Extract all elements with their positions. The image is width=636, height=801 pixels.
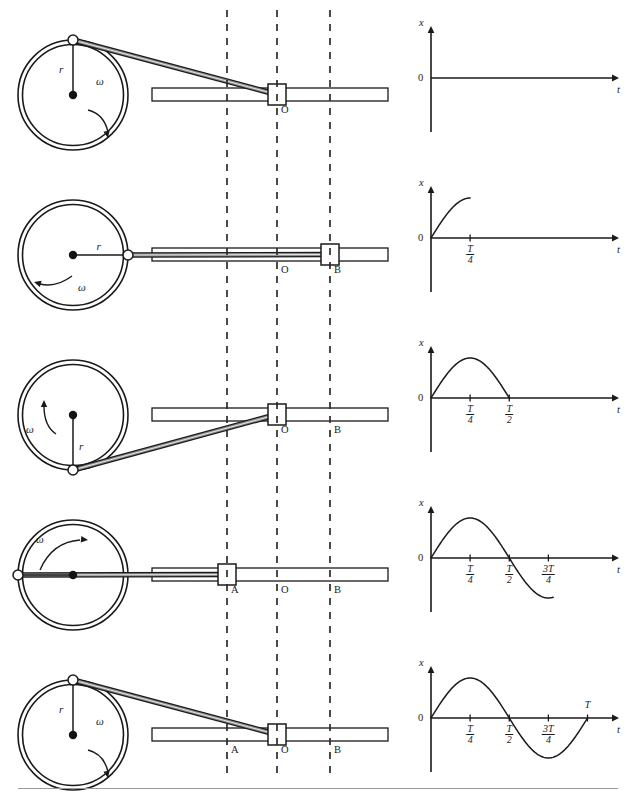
footer-rule <box>18 788 618 789</box>
connecting-rod <box>128 255 330 256</box>
y-axis-arrowhead <box>428 26 435 33</box>
y-axis-label: x <box>419 498 424 509</box>
omega-label: ω <box>36 534 44 545</box>
sine-curve <box>431 198 470 238</box>
y-axis-label: x <box>419 658 424 669</box>
track-point-label-b: B <box>334 585 341 596</box>
origin-label: 0 <box>418 553 423 564</box>
crank-pin[interactable] <box>123 250 133 260</box>
row-phase-0: ωrOxt0 <box>0 10 636 160</box>
omega-arrow-arc <box>88 750 108 772</box>
x-axis-label: t <box>617 245 620 256</box>
crank-hub <box>69 91 77 99</box>
omega-arrow-arc <box>44 406 56 434</box>
origin-label: 0 <box>418 713 423 724</box>
y-axis-arrowhead <box>428 186 435 193</box>
omega-arrow-head <box>33 279 41 287</box>
slider-block[interactable] <box>218 564 236 585</box>
tick-numerator: T <box>505 724 513 734</box>
x-tick-label: T4 <box>466 724 474 745</box>
crank-pin[interactable] <box>68 35 78 45</box>
mechanism-diagram: ωrO <box>0 10 400 160</box>
x-tick-label: 3T4 <box>542 564 555 585</box>
track-point-label-a: A <box>231 745 239 756</box>
tick-denominator: 4 <box>466 414 474 425</box>
omega-arrow-arc <box>40 540 80 570</box>
omega-label: ω <box>96 76 104 87</box>
displacement-time-graph: xt0T4T23T4 <box>400 490 636 640</box>
track-point-label-b: B <box>334 265 341 276</box>
track-point-label-a: A <box>231 585 239 596</box>
track-point-label-o: O <box>281 105 289 116</box>
tick-numerator: T <box>466 244 474 254</box>
connecting-rod <box>73 415 277 471</box>
crank-hub <box>69 571 77 579</box>
slider-block[interactable] <box>268 84 286 105</box>
tick-numerator: T <box>505 404 513 414</box>
radius-label: r <box>59 64 63 75</box>
tick-denominator: 2 <box>505 734 513 745</box>
crank-pin[interactable] <box>13 570 23 580</box>
t-axis-arrowhead <box>612 75 619 82</box>
track-point-label-o: O <box>281 265 289 276</box>
tick-numerator: T <box>505 564 513 574</box>
displacement-time-graph: xt0T4 <box>400 170 636 320</box>
omega-arrow-arc <box>40 276 72 285</box>
crank-hub <box>69 411 77 419</box>
tick-numerator: T <box>466 564 474 574</box>
displacement-time-graph: xt0T4T2 <box>400 330 636 480</box>
tick-denominator: 4 <box>466 254 474 265</box>
tick-numerator: 3T <box>542 724 555 734</box>
row-phase-full: ωrAOBxt0T4T23T4T <box>0 650 636 800</box>
tick-denominator: 2 <box>505 414 513 425</box>
mechanism-diagram: ωAOB <box>0 490 400 640</box>
x-tick-label: 3T4 <box>542 724 555 745</box>
x-tick-label: T4 <box>466 564 474 585</box>
mechanism-diagram: ωrOB <box>0 330 400 480</box>
slider-block[interactable] <box>268 404 286 425</box>
x-tick-label: T2 <box>505 724 513 745</box>
tick-denominator: 4 <box>542 734 555 745</box>
y-axis-arrowhead <box>428 506 435 513</box>
slider-block[interactable] <box>268 724 286 745</box>
crank-hub <box>69 731 77 739</box>
x-tick-label: T2 <box>505 404 513 425</box>
row-phase-quarter: ωrOBxt0T4 <box>0 170 636 320</box>
track-point-label-o: O <box>281 425 289 436</box>
origin-label: 0 <box>418 73 423 84</box>
x-tick-label: T4 <box>466 244 474 265</box>
track-point-label-b: B <box>334 745 341 756</box>
mechanism-diagram: ωrAOB <box>0 650 400 800</box>
sine-curve <box>431 358 509 398</box>
y-axis-arrowhead <box>428 666 435 673</box>
slider-block[interactable] <box>321 244 339 265</box>
x-axis-label: t <box>617 725 620 736</box>
crank-pin[interactable] <box>68 465 78 475</box>
t-axis-arrowhead <box>612 555 619 562</box>
row-phase-half: ωrOBxt0T4T2 <box>0 330 636 480</box>
tick-numerator: 3T <box>542 564 555 574</box>
radius-label: r <box>97 241 101 252</box>
crank-pin[interactable] <box>68 675 78 685</box>
displacement-time-graph: xt0T4T23T4T <box>400 650 636 800</box>
t-axis-arrowhead <box>612 715 619 722</box>
y-axis-label: x <box>419 18 424 29</box>
track-point-label-o: O <box>281 745 289 756</box>
track-point-label-o: O <box>281 585 289 596</box>
tick-denominator: 4 <box>466 734 474 745</box>
mechanism-diagram: ωrOB <box>0 170 400 320</box>
track-point-label-b: B <box>334 425 341 436</box>
omega-label: ω <box>26 424 34 435</box>
omega-arrow-head <box>41 400 47 407</box>
tick-numerator: T <box>466 724 474 734</box>
y-axis-label: x <box>419 338 424 349</box>
omega-arrow-head <box>81 536 89 543</box>
x-tick-label: T <box>585 700 591 710</box>
radius-label: r <box>79 441 83 452</box>
tick-denominator: 4 <box>466 574 474 585</box>
row-phase-three-quarter: ωAOBxt0T4T23T4 <box>0 490 636 640</box>
origin-label: 0 <box>418 233 423 244</box>
x-axis-label: t <box>617 85 620 96</box>
crank-hub <box>69 251 77 259</box>
displacement-time-graph: xt0 <box>400 10 636 160</box>
